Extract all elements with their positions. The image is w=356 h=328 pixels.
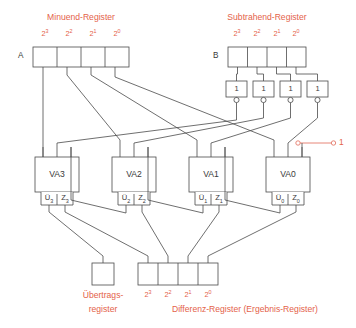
adder-carry-out-va0: Ü0 [276,194,284,202]
carry-in-label[interactable]: 1 [339,138,344,146]
minuend-bit-sup-3: 3 [46,28,49,34]
inverter-label-3: 1 [234,85,238,93]
subtrahend-register-title: Subtrahend-Register [227,13,306,22]
carry-register-box [92,263,114,285]
adder-carry-out-va3: Ü3 [45,194,53,202]
subtrahend-bit-weight-3: 23 [233,30,240,37]
adder-sum-out-va1: Z1 [215,194,223,202]
subtrahend-register-letter: B [213,52,218,60]
adder-sum-out-sub-va1: 1 [220,198,223,204]
subtrahend-bit-sup-3: 3 [238,28,241,34]
minuend-bit-weight-3: 23 [41,30,48,37]
subtrahend-bit-sup-1: 1 [278,28,281,34]
adder-sum-out-sub-va3: 3 [66,198,69,204]
minuend-bit-weight-2: 22 [65,30,72,37]
minuend-register-box [33,47,129,67]
minuend-bit-sup-2: 2 [70,28,73,34]
subtrahend-bit-weight-2: 22 [253,30,260,37]
adder-carry-out-sub-va0: 0 [281,198,284,204]
adder-sum-out-va3: Z3 [61,194,69,202]
adder-carry-out-va1: Ü1 [199,194,207,202]
carry-chain-wires [71,147,280,213]
minuend-register-title: Minuend-Register [47,13,115,22]
difference-bit-sup-3: 3 [149,289,152,295]
difference-bit-weight-1: 21 [184,291,191,298]
adder-input-stubs [43,147,302,157]
adder-carry-out-sub-va1: 1 [204,198,207,204]
adder-carry-out-sub-va3: 3 [50,198,53,204]
adder-sum-out-va0: Z0 [292,194,300,202]
adder-name-va2: VA2 [126,170,142,179]
subtrahend-register-box [228,47,306,67]
difference-bit-sup-1: 1 [189,289,192,295]
subtrahend-bit-weight-0: 20 [292,30,299,37]
difference-bit-sup-2: 2 [169,289,172,295]
diagram-graphics-layer [0,0,356,328]
subtrahend-to-inverter-wires [237,67,318,81]
difference-bit-sup-0: 0 [209,289,212,295]
inverter-label-0: 1 [315,85,319,93]
minuend-bit-sup-1: 1 [94,28,97,34]
difference-bit-weight-2: 22 [164,291,171,298]
adder-sum-out-sub-va0: 0 [297,198,300,204]
difference-bit-weight-0: 20 [204,291,211,298]
inverter-to-adder-wires [57,103,318,147]
adder-name-va1: VA1 [203,170,219,179]
subtrahend-bit-sup-0: 0 [297,28,300,34]
adder-sum-out-va2: Z2 [138,194,146,202]
adder-name-va3: VA3 [49,170,65,179]
inverter-label-1: 1 [288,85,292,93]
adder-name-va0: VA0 [280,170,296,179]
minuend-bit-sup-0: 0 [118,28,121,34]
subtrahend-bit-weight-1: 21 [273,30,280,37]
subtrahend-bit-sup-2: 2 [258,28,261,34]
adder-sum-out-sub-va2: 2 [143,198,146,204]
carry-in-switch [296,141,336,157]
difference-register-box [138,263,218,285]
minuend-bit-weight-1: 21 [89,30,96,37]
adder-carry-out-sub-va2: 2 [127,198,130,204]
difference-register-caption: Differenz-Register (Ergebnis-Register) [172,305,318,314]
result-routing-wires [49,205,296,263]
inverter-label-2: 1 [261,85,265,93]
minuend-register-letter: A [18,52,23,60]
difference-bit-weight-3: 23 [144,291,151,298]
minuend-bit-weight-0: 20 [113,30,120,37]
adder-carry-out-va2: Ü2 [122,194,130,202]
subtractor-diagram: Minuend-Register 23 22 21 20 A Subtrahen… [0,0,356,328]
carry-register-caption-line1: Übertrags- [83,291,124,300]
minuend-to-adder-wires [43,67,274,157]
carry-register-caption-line2: register [89,305,118,314]
